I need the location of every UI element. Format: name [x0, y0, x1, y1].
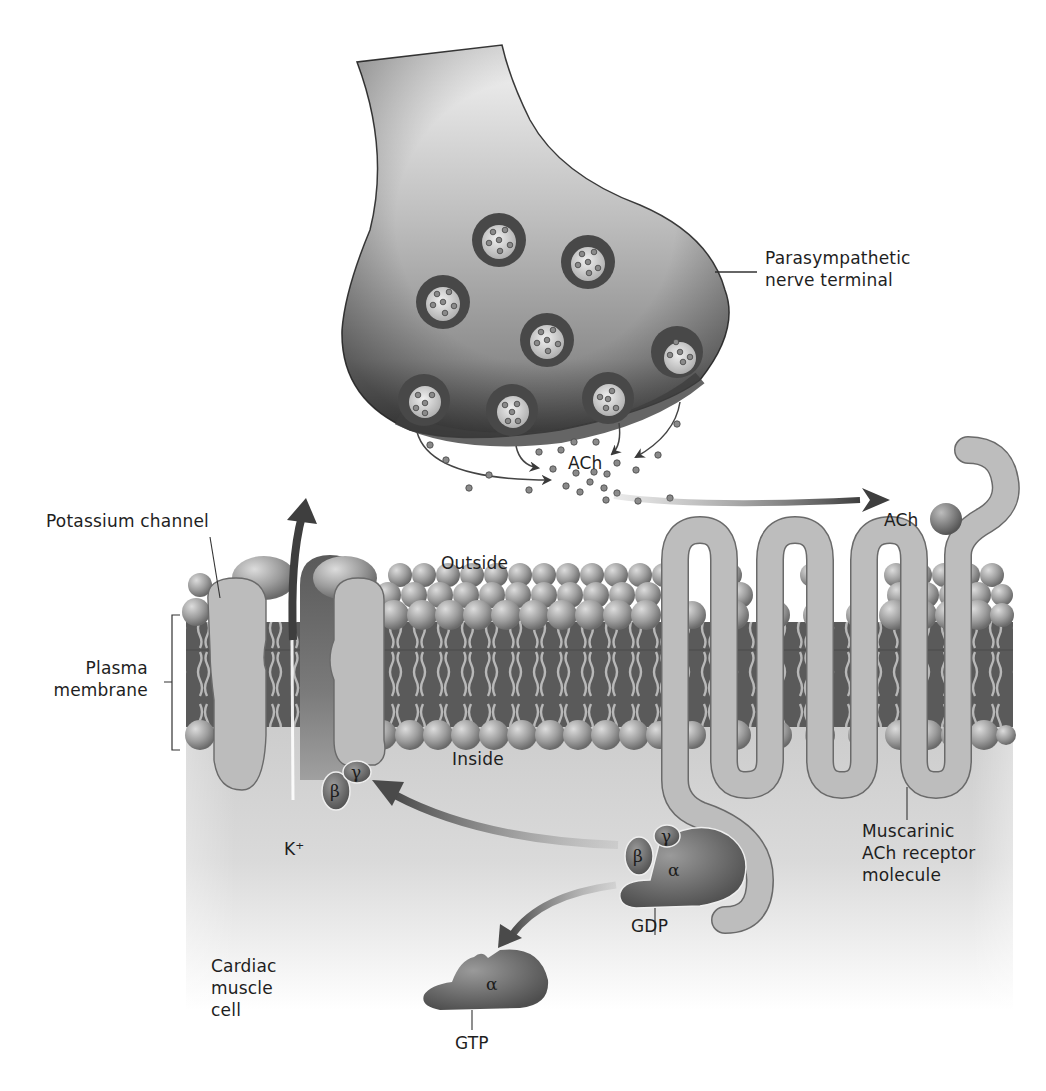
label-gtp: GTP [455, 1032, 489, 1054]
label-line: Cardiac [211, 955, 277, 977]
label-line: nerve terminal [765, 269, 911, 291]
alpha-label-free: α [486, 974, 498, 994]
gamma-label: γ [661, 826, 671, 846]
label-line: Plasma [46, 657, 148, 679]
label-potassium-ion: K⁺ [284, 838, 305, 860]
label-gdp: GDP [631, 915, 668, 937]
label-outside: Outside [441, 552, 508, 574]
label-line: membrane [46, 679, 148, 701]
ach-to-receptor-arrow [614, 496, 860, 503]
beta-label: β [330, 781, 340, 801]
label-line: muscle [211, 977, 277, 999]
beta-label: β [633, 846, 643, 866]
ach-bound-molecule [930, 503, 962, 535]
label-ach-release: ACh [568, 452, 603, 474]
label-ach-bound: ACh [884, 509, 919, 531]
k-ion-path [292, 640, 293, 800]
parasympathetic-nerve-terminal [342, 45, 757, 439]
label-line: ACh receptor [862, 842, 976, 864]
label-line: Parasympathetic [765, 247, 911, 269]
label-line: cell [211, 999, 277, 1021]
label-line: Muscarinic [862, 820, 976, 842]
plasma-membrane-bracket [164, 615, 180, 750]
alpha-label: α [668, 860, 680, 880]
label-line: molecule [862, 864, 976, 886]
label-nerve-terminal: Parasympathetic nerve terminal [765, 247, 911, 291]
label-plasma-membrane: Plasma membrane [46, 657, 148, 701]
label-inside: Inside [452, 748, 504, 770]
label-receptor: Muscarinic ACh receptor molecule [862, 820, 976, 886]
diagram-canvas: β γ β γ α α [0, 0, 1046, 1091]
label-cardiac-cell: Cardiac muscle cell [211, 955, 277, 1021]
label-potassium-channel: Potassium channel [46, 510, 209, 532]
gamma-label: γ [351, 762, 361, 782]
